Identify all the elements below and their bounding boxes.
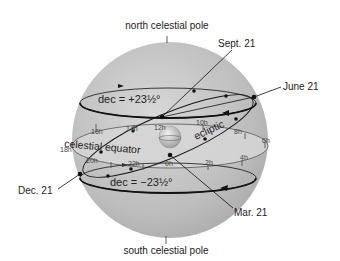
- hour-label-16h: 16h: [91, 128, 103, 135]
- hour-label-14h: 14h: [126, 125, 138, 132]
- dec21-leader: [58, 174, 80, 189]
- celestial-sphere-diagram: 16h 14h 12h 10h 8h 6h 18h 20h 22h 0h 2h …: [0, 0, 340, 261]
- hour-label-22h: 22h: [128, 160, 140, 167]
- hour-label-4h: 4h: [240, 154, 248, 161]
- dec21-label: Dec. 21: [18, 185, 53, 196]
- sun-dot: [234, 117, 238, 121]
- hour-label-6h: 6h: [262, 137, 270, 144]
- hour-label-0h: 0h: [165, 160, 173, 167]
- mar21-label: Mar. 21: [234, 207, 268, 218]
- north-celestial-pole-label: north celestial pole: [125, 20, 209, 31]
- dec-south-label: dec = −23½°: [110, 176, 173, 188]
- dec-north-label: dec = +23½°: [98, 93, 161, 105]
- south-celestial-pole-label: south celestial pole: [123, 245, 208, 256]
- hour-label-8h: 8h: [234, 128, 242, 135]
- sept21-label: Sept. 21: [218, 38, 256, 49]
- sun-dot: [192, 89, 196, 93]
- june21-label: June 21: [283, 81, 319, 92]
- hour-label-2h: 2h: [205, 159, 213, 166]
- hour-label-20h: 20h: [86, 157, 98, 164]
- sun-dot: [129, 167, 133, 171]
- hour-label-12h: 12h: [154, 124, 166, 131]
- june21-leader: [254, 87, 281, 97]
- sun-dot: [224, 94, 228, 98]
